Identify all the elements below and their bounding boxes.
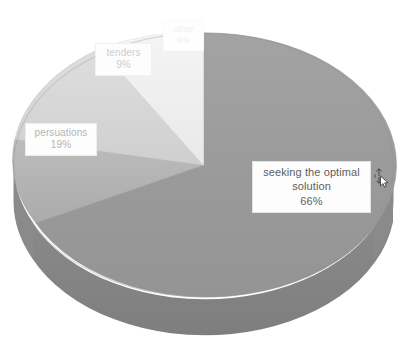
pie-label-persuations[interactable]: persuations 19% (25, 123, 97, 156)
pie-label-value: 9% (101, 59, 146, 71)
pie-label-name: persuations (31, 127, 91, 139)
pie-label-seeking-the-optimal-solution[interactable]: seeking the optimal solution 66% (252, 161, 371, 213)
pie-label-other[interactable]: other 6% (163, 20, 204, 51)
pie-label-value: 19% (31, 139, 91, 151)
pie-chart-container: seeking the optimal solution 66% persuat… (0, 0, 407, 348)
pie-label-value: 66% (258, 194, 365, 208)
pie-label-name: seeking the optimal solution (258, 165, 365, 194)
pie-label-name: other (169, 24, 198, 35)
pie-label-value: 6% (169, 35, 198, 46)
pie-label-name: tenders (101, 47, 146, 59)
pie-label-tenders[interactable]: tenders 9% (95, 43, 152, 76)
